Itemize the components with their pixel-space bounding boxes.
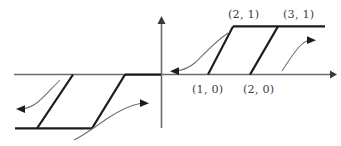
segment-upper-diagonal-left [208,26,233,74]
figure-container: (2, 1) (3, 1) (1, 0) (2, 0) [0,0,341,146]
staircase-hysteresis-svg: (2, 1) (3, 1) (1, 0) (2, 0) [0,0,341,146]
segment-lower-diagonal-right [92,75,125,129]
flow-arrowhead-upper-right-icon [307,36,316,44]
label-point-1-0: (1, 0) [192,83,223,96]
flow-curve-lower-right [74,103,142,140]
x-axis-arrowhead-icon [330,71,337,79]
label-point-2-0: (2, 0) [243,83,274,96]
y-axis-arrowhead-icon [158,16,166,24]
flow-curve-lower-left [23,80,60,109]
segment-lower-diagonal-left [37,75,73,129]
label-point-3-1: (3, 1) [283,8,314,21]
label-point-2-1: (2, 1) [228,8,259,21]
upper-right-branches [208,26,325,74]
flow-arrowhead-lower-right-icon [140,99,149,107]
flow-curve-upper-right [282,40,309,71]
flow-arrowhead-lower-left-icon [16,105,25,113]
segment-upper-diagonal-right [250,26,278,74]
lower-left-branches [15,75,161,129]
point-labels-group: (2, 1) (3, 1) (1, 0) (2, 0) [192,8,314,96]
